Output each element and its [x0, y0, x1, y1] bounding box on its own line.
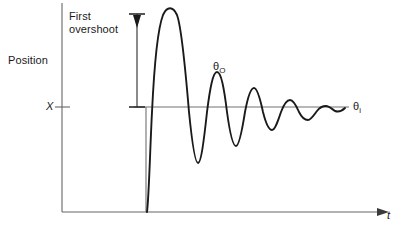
theta-i-label: θi [353, 100, 361, 117]
position-axis-label: Position [8, 54, 48, 67]
first-overshoot-label: Firstovershoot [69, 10, 118, 36]
first-overshoot-arrowhead [133, 15, 141, 28]
first-overshoot-line2: overshoot [69, 23, 118, 35]
theta-o-label: θO [213, 60, 226, 77]
theta-i-subscript: i [359, 106, 361, 115]
response-plot-svg [0, 0, 403, 244]
first-overshoot-line1: First [69, 10, 91, 22]
theta-o-response-curve [147, 8, 345, 212]
theta-o-subscript: O [219, 66, 225, 75]
x-level-label: X [46, 100, 53, 113]
time-axis-label: t [387, 209, 390, 222]
figure-damped-step-response: Position Firstovershoot X θO θi t [0, 0, 403, 244]
